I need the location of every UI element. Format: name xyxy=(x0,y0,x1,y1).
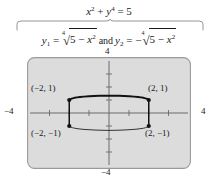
point-label-top-left: (−2, 1) xyxy=(31,83,56,93)
y1-radical-index: 4 xyxy=(62,25,65,41)
y2-radicand: 5 − x2 xyxy=(149,28,177,47)
graph-svg xyxy=(27,57,191,169)
graph-panel xyxy=(27,57,191,169)
axis-label-xmin: −4 xyxy=(4,106,14,116)
point-marker-top-left xyxy=(67,98,71,102)
equation-equals: = xyxy=(115,5,127,17)
y2-radicand-var: x xyxy=(164,33,172,45)
y1-radical: 4√5 − x2 xyxy=(62,29,97,49)
y1-equals: = xyxy=(50,34,62,46)
y2-radical-index: 4 xyxy=(141,25,144,41)
y1-radicand: 5 − x2 xyxy=(69,28,97,47)
equation-implicit: x2 + y4 = 5 xyxy=(0,2,218,18)
point-label-bottom-left: (−2, −1) xyxy=(31,128,61,138)
axis-label-xmax: 4 xyxy=(201,106,206,116)
y2-radical: 4√5 − x2 xyxy=(141,29,176,49)
axis-label-ymax: 4 xyxy=(105,46,110,56)
point-marker-bottom-left xyxy=(67,124,71,128)
y2-radicand-const: 5 xyxy=(150,33,158,45)
y1-radicand-exponent: 2 xyxy=(92,33,96,41)
implicit-curve-figure: x2 + y4 = 5 y1 = 4√5 − x2andy2 = −4√5 − … xyxy=(0,0,218,182)
equation-plus: + xyxy=(95,5,107,17)
point-marker-top-right xyxy=(147,98,151,102)
y1-radicand-var: x xyxy=(85,33,93,45)
y2-radicand-exponent: 2 xyxy=(172,33,176,41)
equation-rhs: 5 xyxy=(126,5,132,17)
axis-label-ymin: −4 xyxy=(101,167,111,177)
conjunction-and: and xyxy=(97,35,115,46)
y2-equals: = xyxy=(124,34,136,46)
point-label-top-right: (2, 1) xyxy=(148,83,168,93)
point-label-bottom-right: (2, −1) xyxy=(145,128,170,138)
